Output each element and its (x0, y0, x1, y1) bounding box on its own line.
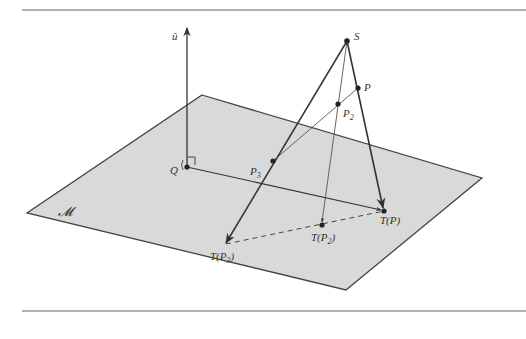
label-s: S (354, 30, 360, 42)
point-tp2 (319, 222, 324, 227)
point-s (344, 38, 350, 44)
label-p: P (363, 81, 371, 93)
label-tp: T(P) (380, 214, 401, 227)
point-tp (381, 208, 386, 213)
point-p3 (270, 158, 275, 163)
point-p2 (335, 101, 340, 106)
plane-m (27, 95, 482, 290)
label-q: Q (170, 164, 178, 176)
point-p (355, 85, 360, 90)
point-q (184, 164, 189, 169)
projection-diagram: 𝓜 û S P P2 P3 Q T(P) T(P2) T(P3) (0, 0, 526, 339)
normal-label: û (172, 30, 178, 42)
label-p2: P2 (342, 107, 354, 122)
